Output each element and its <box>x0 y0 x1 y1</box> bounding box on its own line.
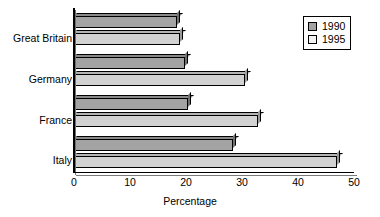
x-tick-10: 10 <box>118 177 142 188</box>
legend-swatch-1990-icon <box>308 22 317 31</box>
bar-side-bevel <box>337 150 340 165</box>
bar-germany-1990 <box>74 54 188 69</box>
bar-side-bevel <box>245 68 248 83</box>
legend-item-1995: 1995 <box>308 33 345 46</box>
bar-side-bevel <box>180 27 183 42</box>
x-tick-0: 0 <box>62 177 86 188</box>
bar-face <box>74 115 258 127</box>
bar-italy-1990 <box>74 136 236 151</box>
x-tick-40: 40 <box>286 177 310 188</box>
legend-label-1995: 1995 <box>322 34 345 45</box>
bar-face <box>74 98 188 110</box>
bar-great-britain-1995 <box>74 30 183 45</box>
bar-side-bevel <box>188 92 191 107</box>
bar-face <box>74 156 337 168</box>
y-axis-line <box>73 8 75 173</box>
legend-item-1990: 1990 <box>308 20 345 33</box>
bar-great-britain-1990 <box>74 13 180 28</box>
legend-label-1990: 1990 <box>322 21 345 32</box>
category-label-germany: Germany <box>29 74 72 85</box>
x-axis-line <box>73 172 354 173</box>
bar-side-bevel <box>258 109 261 124</box>
category-label-great-britain: Great Britain <box>13 33 72 44</box>
bar-face <box>74 139 233 151</box>
y-axis-shadow <box>75 10 77 175</box>
bar-chart: Great Britain Germany France Italy <box>0 0 380 217</box>
x-tick-20: 20 <box>174 177 198 188</box>
bar-face <box>74 74 245 86</box>
bar-france-1990 <box>74 95 191 110</box>
legend: 1990 1995 <box>303 16 351 50</box>
category-label-italy: Italy <box>53 155 72 166</box>
category-label-france: France <box>39 115 72 126</box>
x-tick-50: 50 <box>342 177 366 188</box>
bar-side-bevel <box>177 10 180 25</box>
bar-italy-1995 <box>74 153 340 168</box>
legend-swatch-1995-icon <box>308 35 317 44</box>
bar-face <box>74 57 185 69</box>
bar-germany-1995 <box>74 71 248 86</box>
plot-area: Great Britain Germany France Italy <box>0 0 380 217</box>
bar-side-bevel <box>185 51 188 66</box>
bar-side-bevel <box>233 133 236 148</box>
bar-face <box>74 33 180 45</box>
x-axis-shadow <box>76 175 357 176</box>
bar-face <box>74 16 177 28</box>
bar-france-1995 <box>74 112 261 127</box>
x-tick-30: 30 <box>230 177 254 188</box>
x-axis-title: Percentage <box>0 196 380 207</box>
